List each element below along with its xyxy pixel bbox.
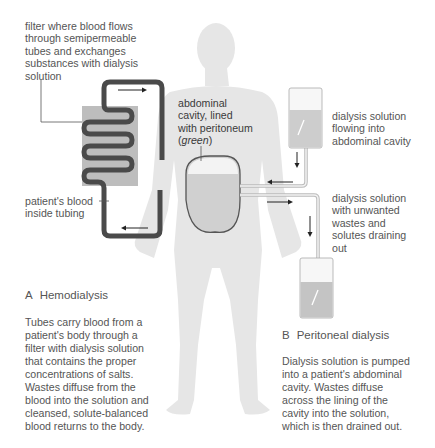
arrow-down-icon [308,232,313,237]
drain-label: dialysis solution with unwanted wastes a… [332,192,406,254]
section-b-text: Dialysis solution is pumped into a patie… [282,355,410,433]
section-a-text: Tubes carry blood from a patient's body … [25,316,149,433]
section-b-heading: BPeritoneal dialysis [282,329,389,341]
arrow-down-icon [295,163,300,168]
arrow-right-icon [142,88,147,93]
section-a-heading: AHemodialysis [25,289,108,301]
abdominal-cavity-label: abdominal cavity, lined with peritoneum … [178,97,253,147]
abdominal-cavity [186,146,240,232]
arrow-right-icon [288,200,293,205]
blood-label: patient's blood inside tubing [25,195,93,220]
filter-label: filter where blood flows through semiper… [25,20,138,82]
arrow-left-icon [121,226,126,231]
inflow-label: dialysis solution flowing into abdominal… [332,110,411,147]
